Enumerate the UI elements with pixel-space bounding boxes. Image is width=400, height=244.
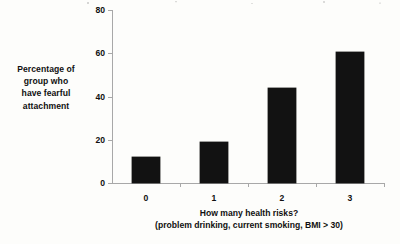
x-axis-tick-mark — [248, 183, 249, 187]
bar-chart-figure: Percentage of group who have fearful att… — [0, 0, 400, 244]
y-axis-label-line-1: Percentage of — [4, 63, 88, 75]
y-axis-label-line-4: attachment — [4, 100, 88, 112]
x-axis-tick-mark — [316, 183, 317, 187]
bar-3 — [336, 52, 364, 183]
y-axis-label: Percentage of group who have fearful att… — [4, 63, 88, 112]
x-axis-label-line-1: How many health risks? — [100, 207, 398, 219]
y-axis-tick-label: 80 — [95, 5, 105, 15]
y-axis-tick-mark — [108, 140, 112, 141]
y-axis-tick-label: 20 — [95, 135, 105, 145]
x-axis-tick-mark — [384, 183, 385, 187]
bar-2 — [268, 88, 296, 183]
y-axis-tick-label: 60 — [95, 48, 105, 58]
y-axis-tick-label: 40 — [95, 92, 105, 102]
y-axis-tick-mark — [108, 10, 112, 11]
y-axis-label-line-2: group who — [4, 75, 88, 87]
x-axis-label: How many health risks? (problem drinking… — [100, 207, 398, 232]
bar-0 — [132, 157, 160, 183]
bar-1 — [200, 142, 228, 183]
x-axis-label-line-2: (problem drinking, current smoking, BMI … — [100, 219, 398, 231]
y-axis-tick-label: 0 — [100, 178, 105, 188]
y-axis-tick-mark — [108, 183, 112, 184]
x-axis-tick-label: 0 — [144, 193, 149, 203]
scan-noise-artifact — [0, 0, 400, 5]
y-axis-tick-mark — [108, 97, 112, 98]
y-axis-line — [112, 10, 113, 184]
x-axis-tick-label: 2 — [280, 193, 285, 203]
x-axis-tick-mark — [180, 183, 181, 187]
y-axis-tick-mark — [108, 53, 112, 54]
x-axis-tick-label: 3 — [348, 193, 353, 203]
plot-area: 020406080 0123 — [112, 10, 384, 183]
x-axis-tick-label: 1 — [212, 193, 217, 203]
y-axis-label-line-3: have fearful — [4, 87, 88, 99]
